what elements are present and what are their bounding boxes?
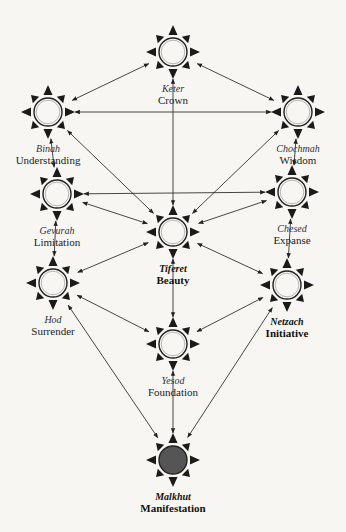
sefirah-english-name: Expanse	[273, 234, 310, 246]
sefirah-hebrew-name: Gevurah	[40, 225, 75, 236]
connection-gevurah-chesed	[84, 192, 265, 194]
sefirah-english-name: Surrender	[31, 325, 75, 337]
connection-gevurah-tiferet	[83, 202, 148, 223]
sefirah-english-name: Foundation	[148, 386, 199, 398]
connection-tiferet-hod	[78, 243, 148, 273]
sefirah-english-name: Understanding	[16, 154, 81, 166]
circle-icon	[39, 269, 67, 297]
sefirah-english-name: Wisdom	[280, 154, 317, 166]
filled-circle-icon	[159, 446, 187, 474]
sefirah-hebrew-name: Hod	[43, 314, 62, 325]
circle-icon	[159, 218, 187, 246]
sefirah-hebrew-name: Binah	[36, 143, 60, 154]
circle-icon	[273, 271, 301, 299]
connection-netzach-malkhut	[188, 308, 273, 438]
connection-hod-yesod	[77, 295, 149, 332]
connection-chesed-tiferet	[199, 201, 267, 224]
connection-binah-tiferet	[68, 131, 154, 214]
sefirah-hebrew-name: Malkhut	[154, 491, 192, 502]
connection-hod-malkhut	[68, 305, 158, 437]
connection-keter-binah	[72, 64, 148, 101]
diagram-canvas: KeterCrownBinahUnderstandingChochmahWisd…	[0, 0, 346, 532]
sefirah-malkhut: MalkhutManifestation	[140, 433, 205, 514]
circle-icon	[284, 98, 312, 126]
sefirah-english-name: Beauty	[157, 274, 191, 286]
sefirah-keter: KeterCrown	[146, 25, 200, 106]
node-layer: KeterCrownBinahUnderstandingChochmahWisd…	[16, 25, 325, 514]
sefirah-hod: HodSurrender	[26, 256, 80, 337]
sefirah-chochmah: ChochmahWisdom	[271, 85, 325, 166]
sefirah-binah: BinahUnderstanding	[16, 85, 81, 166]
sefirah-hebrew-name: Netzach	[269, 316, 304, 327]
circle-icon	[159, 38, 187, 66]
sefirah-english-name: Crown	[158, 94, 188, 106]
sefirah-chesed: ChesedExpanse	[265, 165, 319, 246]
circle-icon	[278, 178, 306, 206]
sefirah-english-name: Limitation	[34, 236, 81, 248]
sefirah-english-name: Initiative	[266, 327, 309, 339]
sefirah-gevurah: GevurahLimitation	[30, 167, 84, 248]
sefirah-hebrew-name: Chesed	[277, 223, 307, 234]
sefirah-english-name: Manifestation	[140, 502, 205, 514]
sefirah-hebrew-name: Yesod	[162, 375, 186, 386]
connection-tiferet-netzach	[198, 243, 263, 273]
tree-of-life-diagram: KeterCrownBinahUnderstandingChochmahWisd…	[0, 0, 346, 532]
sefirah-tiferet: TiferetBeauty	[146, 205, 200, 286]
sefirah-netzach: NetzachInitiative	[260, 258, 314, 339]
connection-keter-chochmah	[197, 64, 273, 101]
circle-icon	[43, 180, 71, 208]
sefirah-yesod: YesodFoundation	[146, 317, 200, 398]
sefirah-hebrew-name: Keter	[161, 83, 184, 94]
sefirah-hebrew-name: Tiferet	[159, 263, 188, 274]
circle-icon	[34, 98, 62, 126]
sefirah-hebrew-name: Chochmah	[276, 143, 319, 154]
circle-icon	[159, 330, 187, 358]
connection-netzach-yesod	[197, 297, 263, 331]
